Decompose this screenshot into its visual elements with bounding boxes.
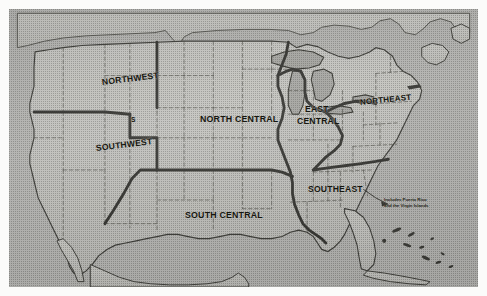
florida-peninsula: [345, 209, 376, 271]
puerto-rico-note-leader: [363, 189, 388, 204]
mexico-landmass: [90, 264, 248, 287]
landmass-group: [17, 13, 469, 287]
cuba-island: [363, 271, 430, 285]
us-regions-map-graphic: [9, 9, 478, 287]
annotation-leader-group: [363, 189, 388, 206]
newfoundland-island: [451, 24, 470, 43]
maritime-provinces: [422, 43, 449, 64]
caribbean-islands: [382, 227, 454, 269]
scanned-page: NORTHWEST SOUTHWEST NORTH CENTRAL SOUTH …: [0, 0, 487, 296]
map-plate: NORTHWEST SOUTHWEST NORTH CENTRAL SOUTH …: [9, 9, 478, 287]
